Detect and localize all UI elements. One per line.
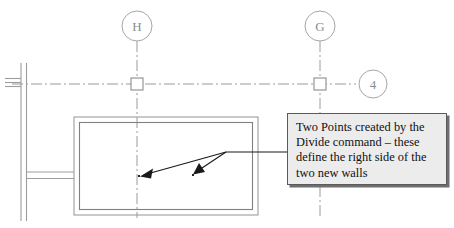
wall-stub — [27, 172, 75, 179]
callout-box[interactable]: Two Points created by the Divide command… — [287, 113, 447, 185]
room-outer-wall — [74, 117, 258, 215]
grid-bubble-h-label: H — [132, 19, 141, 34]
left-exterior-wall — [21, 63, 27, 221]
drawing-canvas: H G 4 — [0, 0, 454, 228]
grid-bubble-4-label: 4 — [370, 77, 377, 92]
wall-break-ticks — [5, 79, 21, 87]
divide-point-left-marker[interactable] — [138, 175, 140, 177]
grid-node-g4[interactable] — [314, 78, 326, 90]
grid-node-h4[interactable] — [131, 78, 143, 90]
grid-bubble-g[interactable]: G — [305, 11, 335, 41]
grid-bubble-h[interactable]: H — [122, 11, 152, 41]
grid-bubble-g-label: G — [315, 19, 324, 34]
callout-text: Two Points created by the Divide command… — [288, 114, 446, 186]
grid-bubble-4[interactable]: 4 — [359, 70, 387, 98]
callout-leader-lines — [140, 152, 287, 179]
